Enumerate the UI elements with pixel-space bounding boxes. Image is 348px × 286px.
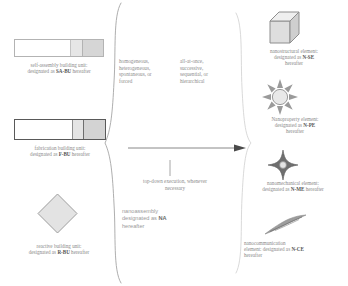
caption-n-ce-line3: hereafter [244, 252, 262, 258]
cube-3d-icon [264, 7, 306, 53]
modifier-column-2: all-at-once, successive, sequential, or … [180, 58, 226, 84]
caption-sa-bu-code: SA-BU [56, 68, 71, 74]
modifier-column-1: homogeneous, heterogeneous, spontaneous,… [119, 58, 165, 84]
caption-n-se: nanostructural element: designated as N-… [244, 48, 344, 67]
process-line3: hereafter [122, 223, 144, 229]
caption-f-bu-line1: fabrication building unit: [35, 145, 86, 151]
caption-n-ce-line2-prefix: element: designated as [244, 246, 291, 252]
left-grouping-brace [104, 2, 130, 284]
modifier-column-3: top-down execution, whenever necessary [136, 178, 214, 191]
caption-f-bu-code: F-BU [59, 151, 71, 157]
caption-n-me-line2-prefix: designated as [262, 186, 291, 192]
segmented-bar-bold-icon [14, 119, 106, 140]
process-line1: nanoassembly [122, 208, 158, 214]
caption-n-me: nanomechanical element: designated as N-… [238, 180, 348, 192]
caption-r-bu-line2-suffix: hereafter [70, 249, 89, 255]
process-line2-prefix: designated as [122, 215, 158, 221]
diamond-icon [35, 191, 80, 236]
caption-n-se-line1: nanostructural element: [270, 48, 318, 54]
segmented-bar-thin-icon [14, 39, 104, 57]
caption-n-ce: nanocommunication element: designated as… [244, 240, 346, 259]
caption-f-bu: fabrication building unit: designated as… [4, 145, 116, 157]
caption-n-pe-line2-prefix: designated as [275, 122, 304, 128]
caption-r-bu-code: R-BU [57, 249, 69, 255]
caption-n-pe-line1: Nanoproperty element: [271, 116, 318, 122]
caption-n-pe-code: N-PE [303, 122, 315, 128]
caption-sa-bu: self-assembly building unit: designated … [4, 62, 114, 74]
starburst-sun-icon [262, 79, 298, 119]
caption-sa-bu-line1: self-assembly building unit: [31, 62, 88, 68]
caption-r-bu-line2-prefix: designated as [29, 249, 58, 255]
caption-n-me-code: N-ME [291, 186, 305, 192]
caption-n-se-code: N-SE [302, 54, 314, 60]
caption-r-bu: reactive building unit: designated as R-… [2, 243, 116, 255]
process-code: NA [158, 215, 166, 221]
caption-sa-bu-line2-prefix: designated as [27, 68, 56, 74]
caption-n-se-line2-prefix: designated as [274, 54, 303, 60]
caption-r-bu-line1: reactive building unit: [37, 243, 82, 249]
caption-sa-bu-line2-suffix: hereafter [71, 68, 90, 74]
caption-f-bu-line2-suffix: hereafter [71, 151, 90, 157]
caption-n-me-line1: nanomechanical element: [267, 180, 319, 186]
process-label-nanoassembly: nanoassembly designated as NA hereafter [122, 208, 204, 230]
caption-n-ce-code: N-CE [291, 246, 303, 252]
wave-feather-icon [262, 212, 310, 242]
caption-n-me-line2-suffix: hereafter [304, 186, 323, 192]
diagram-canvas: self-assembly building unit: designated … [0, 0, 348, 286]
caption-n-pe: Nanoproperty element: designated as N-PE… [244, 116, 346, 135]
nanoassembly-arrow [128, 138, 246, 158]
caption-n-pe-line3: hereafter [286, 128, 304, 134]
four-point-star-icon [268, 150, 298, 184]
caption-n-ce-line1: nanocommunication [244, 240, 286, 246]
caption-f-bu-line2-prefix: designated as [30, 151, 59, 157]
caption-n-se-line3: hereafter [285, 60, 303, 66]
arrow-branch-tick [166, 160, 174, 176]
